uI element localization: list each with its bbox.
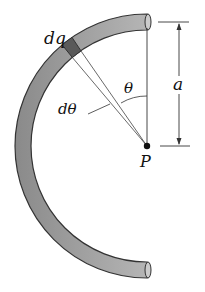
point-p xyxy=(144,143,150,149)
theta-arc xyxy=(121,96,147,103)
dq-radius-line-1 xyxy=(81,51,147,146)
diagram-canvas: dq θ dθ a P xyxy=(0,0,205,292)
dimension-arrow-down xyxy=(177,138,182,145)
label-dq: dq xyxy=(44,30,66,47)
charged-rod xyxy=(15,14,147,278)
label-theta: θ xyxy=(124,81,133,96)
dimension-arrow-up xyxy=(177,23,182,30)
dq-radius-line-2 xyxy=(72,58,147,147)
rod-end-bottom xyxy=(145,262,151,278)
dtheta-leader xyxy=(88,104,110,114)
label-p: P xyxy=(140,154,151,170)
diagram-graphics xyxy=(0,0,205,292)
label-a: a xyxy=(173,76,183,93)
rod-end-top xyxy=(145,14,151,30)
label-dtheta: dθ xyxy=(58,102,77,117)
